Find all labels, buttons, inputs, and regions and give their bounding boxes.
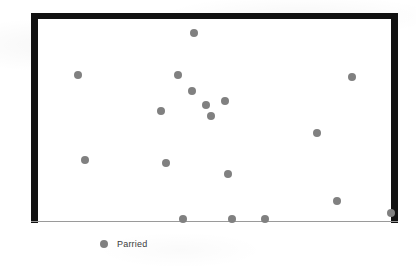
plot-area bbox=[38, 19, 391, 222]
data-point bbox=[188, 87, 196, 95]
data-point bbox=[221, 97, 229, 105]
data-point bbox=[224, 170, 232, 178]
data-point bbox=[157, 107, 165, 115]
data-point bbox=[81, 156, 89, 164]
scatter-chart: Parried bbox=[0, 0, 416, 271]
data-point bbox=[228, 215, 236, 223]
data-point bbox=[387, 209, 395, 217]
data-point bbox=[202, 101, 210, 109]
data-point bbox=[333, 197, 341, 205]
data-point bbox=[179, 215, 187, 223]
data-point bbox=[261, 215, 269, 223]
data-point bbox=[174, 71, 182, 79]
legend-item-label: Parried bbox=[117, 239, 147, 249]
data-point bbox=[207, 112, 215, 120]
data-point bbox=[162, 159, 170, 167]
data-point bbox=[348, 73, 356, 81]
data-point bbox=[190, 29, 198, 37]
legend-circle-marker-icon bbox=[100, 240, 108, 248]
data-point bbox=[313, 129, 321, 137]
data-point bbox=[74, 71, 82, 79]
chart-legend: Parried bbox=[100, 236, 147, 252]
